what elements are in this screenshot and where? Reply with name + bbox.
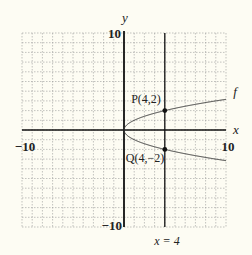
x-axis-label: x bbox=[232, 122, 239, 137]
point-p-marker bbox=[162, 108, 167, 113]
vertical-line-label: x = 4 bbox=[153, 234, 179, 248]
x-max-tick-label: 10 bbox=[222, 139, 235, 154]
point-p-label: P(4,2) bbox=[131, 92, 161, 106]
graph-figure: y x 10 −10 −10 10 f P(4,2) Q(4,−2) x = 4 bbox=[0, 0, 252, 255]
y-min-tick-label: −10 bbox=[102, 218, 122, 233]
curve-f-label: f bbox=[233, 84, 239, 99]
y-max-tick-label: 10 bbox=[108, 26, 121, 41]
y-axis-label: y bbox=[120, 10, 128, 25]
point-q-label: Q(4,−2) bbox=[126, 151, 164, 165]
x-min-tick-label: −10 bbox=[15, 139, 35, 154]
